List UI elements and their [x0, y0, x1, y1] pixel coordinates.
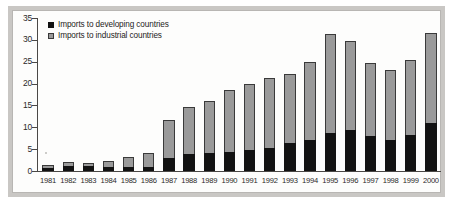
bar-segment-developing — [345, 130, 356, 171]
y-tick-mark — [32, 40, 37, 41]
y-tick-label-wrap: 15 — [6, 101, 32, 110]
bar-slot — [385, 18, 396, 171]
y-tick-label: 30 — [10, 35, 32, 44]
x-tick-label: 1989 — [199, 176, 219, 185]
bar-segment-developing — [42, 168, 53, 171]
bar-segment-developing — [143, 167, 154, 171]
stacked-bar — [405, 60, 416, 171]
bar-segment-industrial — [244, 84, 255, 150]
x-tick-label: 1986 — [139, 176, 159, 185]
x-tick-label: 2000 — [421, 176, 441, 185]
bar-slot — [183, 18, 194, 171]
bar-segment-developing — [123, 167, 134, 171]
bar-segment-developing — [325, 133, 336, 171]
x-tick-label: 1998 — [381, 176, 401, 185]
y-tick-label: 20 — [10, 79, 32, 88]
stacked-bar — [365, 63, 376, 171]
stacked-bar — [63, 162, 74, 171]
bar-slot — [163, 18, 174, 171]
x-tick-label: 1997 — [360, 176, 380, 185]
y-tick-label: 5 — [10, 145, 32, 154]
y-tick-label: 25 — [10, 57, 32, 66]
x-tick-label: 1993 — [280, 176, 300, 185]
stacked-bar — [345, 41, 356, 171]
bar-segment-industrial — [345, 41, 356, 131]
x-tick-label: 1994 — [300, 176, 320, 185]
y-tick-label: 0 — [10, 167, 32, 176]
bar-segment-developing — [264, 148, 275, 171]
y-tick-label-wrap: 30 — [6, 35, 32, 44]
stacked-bar — [143, 153, 154, 171]
x-tick-label: 1995 — [320, 176, 340, 185]
x-tick-label: 1991 — [240, 176, 260, 185]
bar-slot — [325, 18, 336, 171]
bar-slot — [304, 18, 315, 171]
bar-slot — [42, 18, 53, 171]
bar-slot — [264, 18, 275, 171]
x-tick-label: 1987 — [159, 176, 179, 185]
bar-segment-developing — [204, 153, 215, 171]
y-tick-label-wrap: 0 — [6, 167, 32, 176]
x-tick-label: 1983 — [78, 176, 98, 185]
stacked-bar — [284, 74, 295, 171]
legend-item-developing: Imports to developing countries — [48, 20, 169, 29]
x-tick-label: 1988 — [179, 176, 199, 185]
bar-segment-industrial — [405, 60, 416, 135]
stacked-bar — [325, 34, 336, 171]
bar-segment-industrial — [304, 62, 315, 140]
y-tick-mark — [32, 171, 37, 172]
gray-square-icon — [48, 33, 54, 39]
bar-slot — [63, 18, 74, 171]
x-tick-label: 1990 — [219, 176, 239, 185]
y-tick-label-wrap: 10 — [6, 123, 32, 132]
chart-plot-area: 05101520253035 1981198219831984198519861… — [0, 0, 453, 203]
y-tick-label: 10 — [10, 123, 32, 132]
bar-segment-developing — [183, 154, 194, 171]
bar-segment-industrial — [284, 74, 295, 144]
black-square-icon — [48, 22, 54, 28]
bar-segment-developing — [365, 136, 376, 171]
y-tick-label: 35 — [10, 14, 32, 23]
bar-slot — [405, 18, 416, 171]
bar-slot — [83, 18, 94, 171]
bar-segment-developing — [63, 166, 74, 171]
x-axis-line — [37, 171, 441, 172]
stacked-bar — [244, 84, 255, 171]
y-tick-mark — [32, 62, 37, 63]
y-tick-mark — [32, 18, 37, 19]
stacked-bar — [425, 33, 436, 171]
bar-segment-industrial — [425, 33, 436, 123]
bar-segment-industrial — [183, 107, 194, 154]
bar-segment-developing — [304, 140, 315, 171]
bar-segment-developing — [284, 143, 295, 171]
x-tick-label: 1999 — [401, 176, 421, 185]
bar-slot — [103, 18, 114, 171]
bar-segment-developing — [163, 158, 174, 171]
scan-artifact-speck — [45, 152, 47, 154]
y-tick-label-wrap: 25 — [6, 57, 32, 66]
x-tick-label: 1992 — [260, 176, 280, 185]
x-tick-label: 1985 — [119, 176, 139, 185]
legend-item-industrial: Imports to industrial countries — [48, 31, 169, 40]
bar-segment-industrial — [204, 101, 215, 153]
stacked-bar — [183, 107, 194, 171]
legend-label-developing: Imports to developing countries — [58, 20, 169, 29]
bar-slot — [284, 18, 295, 171]
stacked-bar — [304, 62, 315, 171]
bar-slot — [204, 18, 215, 171]
y-tick-label-wrap: 20 — [6, 79, 32, 88]
x-tick-label: 1981 — [38, 176, 58, 185]
y-tick-mark — [32, 149, 37, 150]
bar-slot — [143, 18, 154, 171]
x-tick-label: 1996 — [340, 176, 360, 185]
x-tick-label: 1984 — [98, 176, 118, 185]
y-tick-label: 15 — [10, 101, 32, 110]
x-tick-label: 1982 — [58, 176, 78, 185]
bar-slot — [425, 18, 436, 171]
bar-segment-developing — [103, 167, 114, 171]
bar-segment-developing — [244, 150, 255, 171]
bar-slot — [224, 18, 235, 171]
bar-slot — [365, 18, 376, 171]
legend-label-industrial: Imports to industrial countries — [58, 31, 162, 40]
bar-segment-developing — [83, 166, 94, 171]
